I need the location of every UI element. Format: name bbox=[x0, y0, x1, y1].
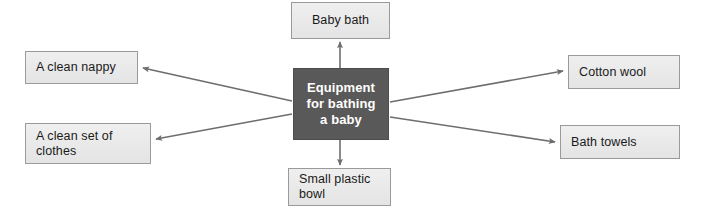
node-baby-bath-label: Baby bath bbox=[292, 13, 389, 28]
node-bath-towels-label: Bath towels bbox=[561, 135, 679, 150]
arrow-center-to-bath-towels bbox=[390, 117, 555, 142]
arrow-center-to-cotton-wool bbox=[390, 71, 563, 102]
node-cotton-wool-label: Cotton wool bbox=[569, 65, 679, 80]
node-cotton-wool: Cotton wool bbox=[568, 55, 680, 89]
node-center-equipment-for-bathing-a-baby: Equipment for bathing a baby bbox=[293, 68, 389, 140]
node-bath-towels: Bath towels bbox=[560, 125, 680, 159]
node-clean-nappy-label: A clean nappy bbox=[26, 60, 137, 75]
node-center-label: Equipment for bathing a baby bbox=[294, 80, 388, 128]
node-baby-bath: Baby bath bbox=[291, 2, 390, 39]
diagram-canvas: Baby bath A clean nappy A clean set of c… bbox=[0, 0, 710, 215]
node-small-plastic-bowl: Small plastic bowl bbox=[288, 168, 391, 206]
arrow-center-to-clean-clothes bbox=[156, 114, 292, 139]
node-clean-set-of-clothes: A clean set of clothes bbox=[25, 123, 151, 164]
node-small-plastic-bowl-label: Small plastic bowl bbox=[289, 172, 390, 202]
arrow-center-to-clean-nappy bbox=[143, 68, 292, 101]
node-clean-set-of-clothes-label: A clean set of clothes bbox=[26, 129, 150, 159]
node-clean-nappy: A clean nappy bbox=[25, 51, 138, 84]
